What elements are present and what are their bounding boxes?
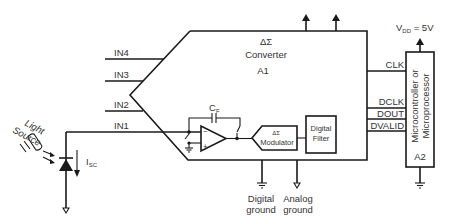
bus-signals: CLK DCLK DOUT DVALID (367, 59, 406, 131)
signal-dclk: DCLK (379, 96, 405, 107)
mcu-line1: Microcontroller or (409, 69, 420, 142)
modulator-label: Modulator (260, 138, 294, 147)
cf-label: CF (209, 102, 220, 114)
input-in4: IN4 (105, 47, 164, 59)
modulator-symbol: ΔΣ (272, 130, 280, 136)
converter-name: Converter (245, 49, 287, 60)
converter-ref: A1 (257, 65, 269, 76)
vdd-label: VDD = 5V (396, 22, 434, 34)
signal-chain-diagram: ΔΣ Converter A1 IN4 IN3 IN2 IN1 − + (0, 0, 449, 224)
filter-line2: Filter (313, 134, 330, 143)
isc-label: ISC (86, 156, 98, 168)
analog-ground-line1: Analog (283, 193, 313, 204)
signal-clk: CLK (386, 59, 405, 70)
photodiode: ISC (43, 132, 98, 213)
digital-filter-block: Digital Filter (306, 116, 336, 153)
input-in1: IN1 (66, 120, 201, 132)
svg-text:−: − (203, 127, 208, 136)
filter-line1: Digital (311, 124, 332, 133)
digital-ground-line2: ground (246, 204, 276, 215)
digital-ground: Digital ground (246, 160, 276, 215)
in4-label: IN4 (114, 47, 129, 58)
modulator-block: ΔΣ Modulator (252, 126, 306, 150)
svg-text:+: + (203, 142, 208, 151)
converter-supply-arrows (302, 14, 340, 31)
signal-dout: DOUT (377, 108, 404, 119)
light-source: Light Source (11, 117, 47, 152)
digital-ground-line1: Digital (248, 193, 274, 204)
signal-dvalid: DVALID (370, 120, 404, 131)
analog-ground: Analog ground (283, 160, 313, 215)
analog-ground-line2: ground (283, 204, 313, 215)
in3-label: IN3 (114, 69, 129, 80)
input-in3: IN3 (105, 69, 143, 81)
converter-symbol: ΔΣ (260, 36, 272, 47)
in1-label: IN1 (114, 120, 129, 131)
input-in2: IN2 (105, 99, 143, 111)
integrator-opamp: − + CF (185, 102, 252, 152)
mcu-ref: A2 (414, 151, 426, 162)
mcu-line2: Microprocessor (420, 74, 431, 139)
in2-label: IN2 (114, 99, 129, 110)
